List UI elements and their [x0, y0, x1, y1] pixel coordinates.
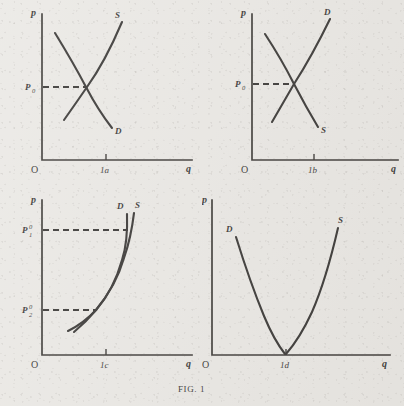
- panel-1c-x-axis-label: q: [186, 358, 191, 369]
- svg-text:P: P: [22, 305, 28, 315]
- panel-1b-price-label: P 0: [235, 79, 246, 91]
- svg-text:0: 0: [32, 87, 36, 94]
- panel-1a-panel-label: 1a: [100, 165, 110, 175]
- panel-1d-supply-curve: [286, 228, 338, 354]
- panel-1b-axes: [252, 14, 398, 160]
- panel-1a-x-axis-label: q: [186, 163, 191, 174]
- panel-1a: p q O 1a S D P 0: [0, 0, 202, 190]
- panel-1b-supply-label: S: [321, 125, 326, 135]
- panel-1a-supply-curve: [64, 22, 122, 120]
- panel-1c-price1-label: P 0 1: [22, 223, 33, 238]
- panel-1a-supply-label: S: [115, 10, 120, 20]
- panel-1b-x-axis-label: q: [391, 163, 396, 174]
- panel-1c: p q O 1c D S P 0 1 P 0 2: [0, 190, 202, 390]
- panel-1b-y-axis-label: p: [240, 7, 246, 18]
- panel-1b-supply-curve: [265, 34, 318, 127]
- panel-1b: p q O 1b D S P 0: [202, 0, 404, 190]
- panel-1b-panel-label: 1b: [308, 165, 318, 175]
- svg-text:0: 0: [29, 303, 33, 310]
- panel-1c-demand-label: D: [116, 201, 124, 211]
- panel-1b-demand-label: D: [323, 7, 331, 17]
- panel-1d-demand-curve: [236, 237, 285, 354]
- panel-1a-origin-label: O: [31, 164, 38, 175]
- panel-1a-y-axis-label: p: [30, 7, 36, 18]
- panel-1c-origin-label: O: [31, 359, 38, 370]
- panel-1d-panel-label: 1d: [280, 360, 290, 370]
- svg-text:0: 0: [29, 223, 33, 230]
- panel-1b-origin-label: O: [241, 164, 248, 175]
- svg-text:2: 2: [29, 311, 33, 318]
- panel-1b-demand-curve: [272, 19, 330, 122]
- panel-1d-x-axis-label: q: [382, 358, 387, 369]
- panel-1d-y-axis-label: p: [202, 194, 207, 205]
- figure-caption-text: FIG. 1: [178, 384, 205, 394]
- svg-text:0: 0: [242, 84, 246, 91]
- panel-1a-price-label: P 0: [25, 82, 36, 94]
- panel-1c-y-axis-label: p: [30, 194, 36, 205]
- figure-page: p q O 1a S D P 0 p q O 1b D S P 0: [0, 0, 404, 406]
- panel-1d-demand-label: D: [225, 224, 233, 234]
- panel-1c-supply-label: S: [135, 200, 140, 210]
- panel-1c-price2-label: P 0 2: [22, 303, 33, 318]
- svg-text:1: 1: [29, 231, 32, 238]
- figure-caption: FIG. 1: [0, 378, 404, 404]
- panel-1d: p q O 1d D S: [202, 190, 404, 390]
- panel-1a-demand-label: D: [114, 126, 122, 136]
- svg-text:P: P: [235, 79, 241, 89]
- panel-1d-supply-label: S: [338, 215, 343, 225]
- svg-text:P: P: [25, 82, 31, 92]
- panel-1d-origin-label: O: [202, 359, 209, 370]
- panel-1c-panel-label: 1c: [100, 360, 109, 370]
- panel-1a-demand-curve: [55, 33, 112, 128]
- svg-text:P: P: [22, 225, 28, 235]
